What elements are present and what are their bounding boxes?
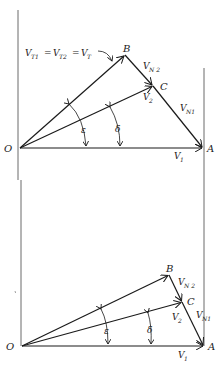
svg-text:N 2: N 2 [148,66,160,73]
bottom-label-epsilon: ε [104,326,109,336]
bottom-label-b: B [165,263,173,274]
bottom-label-delta: δ [147,325,152,335]
top-vt-pointer [98,51,112,61]
top-label-c: C [160,81,168,92]
svg-text:T: T [87,53,92,60]
stray-mark [15,291,16,293]
bottom-label-v2: V 2 [172,312,182,324]
bottom-label-vn2: V N 2 [178,277,195,289]
top-vector-vt [20,56,124,148]
top-label-v1: V 1 [174,151,184,163]
velocity-triangle-diagram: O A B C V T1 = V T2 = V T V N 2 V 2 V N1 [0,0,224,365]
top-label-delta: δ [115,124,120,134]
svg-text:T1: T1 [31,53,39,60]
svg-text:N 2: N 2 [183,282,195,289]
svg-text:2: 2 [148,97,153,104]
top-label-vn2: V N 2 [143,61,160,73]
svg-text:N1: N1 [185,108,195,115]
bottom-vector-vn1 [182,302,203,345]
top-velocity-triangle: O A B C V T1 = V T2 = V T V N 2 V 2 V N1 [4,10,214,180]
top-label-a: A [206,143,214,154]
bottom-label-c: C [187,296,195,307]
bottom-velocity-triangle: O A B C V N 2 V 2 V N1 V 1 ε δ [6,180,215,362]
top-label-epsilon: ε [81,125,86,135]
bottom-vector-vt [22,276,168,347]
bottom-label-v1: V 1 [178,350,188,362]
top-label-v2: V 2 [143,92,153,104]
top-vector-v2 [20,87,152,149]
top-label-vn1: V N1 [180,103,195,115]
svg-text:2: 2 [177,317,182,324]
svg-text:1: 1 [180,156,184,163]
top-label-o: O [4,143,12,154]
svg-text:N1: N1 [201,315,211,322]
svg-text:1: 1 [184,355,188,362]
top-label-b: B [122,43,130,54]
bottom-label-vn1: V N1 [196,310,211,322]
bottom-label-a: A [207,341,215,352]
svg-text:=: = [44,48,52,58]
svg-text:=: = [72,48,80,58]
bottom-label-o: O [6,341,14,352]
top-vector-vn1 [153,86,202,147]
bottom-vector-v2 [22,303,181,347]
top-label-vt-equation: V T1 = V T2 = V T [25,48,92,60]
svg-text:T2: T2 [59,53,67,60]
